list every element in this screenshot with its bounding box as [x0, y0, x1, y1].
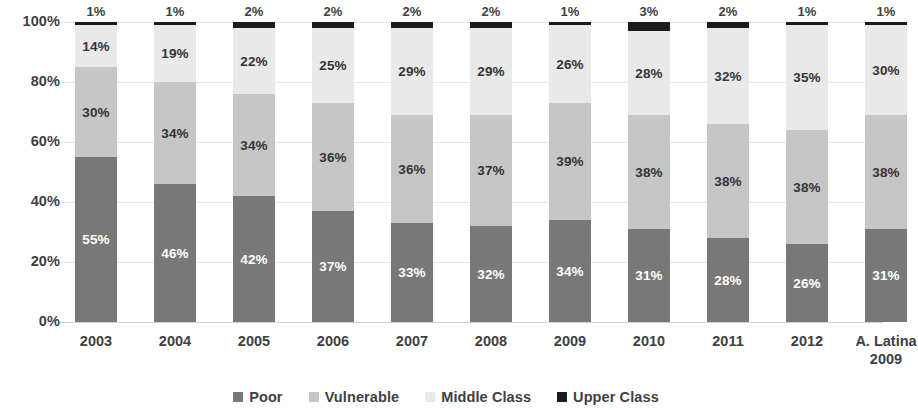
bar-group[interactable]: 37%36%25%2%2%	[312, 22, 354, 322]
x-axis-tick-label: 2009	[538, 332, 602, 350]
x-axis-tick-label: 2008	[459, 332, 523, 350]
bar-segment-middle-class[interactable]: 22%	[233, 28, 275, 94]
x-axis-tick-line: 2012	[775, 332, 839, 350]
bar-segment-middle-class[interactable]: 14%	[75, 25, 117, 67]
bar-segment-middle-class[interactable]: 35%	[786, 25, 828, 130]
bar-group[interactable]: 42%34%22%2%2%	[233, 22, 275, 322]
bar-group[interactable]: 26%38%35%1%1%	[786, 22, 828, 322]
bar-segment-outside-label: 1%	[75, 4, 117, 19]
bar-group[interactable]: 32%37%29%2%2%	[470, 22, 512, 322]
bar-group[interactable]: 46%34%19%1%1%	[154, 22, 196, 322]
legend-item[interactable]: Poor	[233, 389, 282, 405]
bar-segment-value-label: 37%	[319, 259, 346, 274]
bar-segment-vulnerable[interactable]: 39%	[549, 103, 591, 220]
bar-segment-middle-class[interactable]: 28%	[628, 31, 670, 115]
bar-segment-outside-label: 2%	[391, 4, 433, 19]
bar-group[interactable]: 31%38%28%3%3%	[628, 22, 670, 322]
bar-segment-upper-class[interactable]: 2%	[233, 22, 275, 28]
bar-segment-middle-class[interactable]: 19%	[154, 25, 196, 82]
bar-segment-poor[interactable]: 46%	[154, 184, 196, 322]
bar-segment-value-label: 30%	[82, 105, 109, 120]
x-axis-tick-line: 2007	[380, 332, 444, 350]
bar-segment-middle-class[interactable]: 30%	[865, 25, 907, 115]
bar-segment-vulnerable[interactable]: 38%	[707, 124, 749, 238]
legend-swatch-icon	[309, 392, 319, 402]
y-axis-tick-label: 0%	[4, 313, 60, 329]
bar-segment-upper-class[interactable]: 1%	[75, 22, 117, 25]
bar-segment-upper-class[interactable]: 2%	[707, 22, 749, 28]
legend-item-label: Poor	[249, 389, 282, 405]
bar-segment-poor[interactable]: 55%	[75, 157, 117, 322]
bar-segment-outside-label: 1%	[865, 4, 907, 19]
bar-segment-outside-label: 3%	[628, 4, 670, 19]
bar-segment-poor[interactable]: 26%	[786, 244, 828, 322]
bar-segment-vulnerable[interactable]: 36%	[391, 115, 433, 223]
bar-segment-upper-class[interactable]: 2%	[312, 22, 354, 28]
x-axis-tick-line: 2010	[617, 332, 681, 350]
bar-segment-value-label: 39%	[556, 154, 583, 169]
x-axis-tick-line: 2009	[854, 350, 918, 368]
bar-segment-value-label: 34%	[556, 264, 583, 279]
bar-segment-poor[interactable]: 31%	[865, 229, 907, 322]
bar-segment-upper-class[interactable]: 1%	[786, 22, 828, 25]
bar-segment-poor[interactable]: 34%	[549, 220, 591, 322]
bar-segment-value-label: 55%	[82, 232, 109, 247]
bar-segment-value-label: 35%	[793, 70, 820, 85]
bar-segment-vulnerable[interactable]: 36%	[312, 103, 354, 211]
bar-segment-middle-class[interactable]: 32%	[707, 28, 749, 124]
bar-group[interactable]: 34%39%26%1%1%	[549, 22, 591, 322]
y-axis-tick-label: 60%	[4, 133, 60, 149]
bar-segment-outside-label: 1%	[549, 4, 591, 19]
bar-segment-poor[interactable]: 32%	[470, 226, 512, 322]
bar-segment-vulnerable[interactable]: 38%	[786, 130, 828, 244]
bar-segment-upper-class[interactable]: 1%	[865, 22, 907, 25]
bar-segment-outside-label: 2%	[312, 4, 354, 19]
bar-segment-value-label: 29%	[477, 64, 504, 79]
bar-segment-upper-class[interactable]: 1%	[154, 22, 196, 25]
bar-segment-middle-class[interactable]: 29%	[470, 28, 512, 115]
bar-segment-upper-class[interactable]: 2%	[470, 22, 512, 28]
bar-segment-outside-label: 2%	[707, 4, 749, 19]
bar-segment-vulnerable[interactable]: 38%	[865, 115, 907, 229]
bar-group[interactable]: 55%30%14%1%1%	[75, 22, 117, 322]
bar-segment-middle-class[interactable]: 29%	[391, 28, 433, 115]
bar-segment-middle-class[interactable]: 25%	[312, 28, 354, 103]
gridline	[60, 322, 883, 323]
legend-item[interactable]: Upper Class	[557, 389, 659, 405]
bar-segment-outside-label: 1%	[154, 4, 196, 19]
bar-segment-poor[interactable]: 31%	[628, 229, 670, 322]
bar-segment-value-label: 22%	[240, 54, 267, 69]
bar-segment-vulnerable[interactable]: 38%	[628, 115, 670, 229]
bar-segment-vulnerable[interactable]: 37%	[470, 115, 512, 226]
bar-segment-vulnerable[interactable]: 34%	[154, 82, 196, 184]
bar-segment-value-label: 32%	[714, 69, 741, 84]
bar-segment-value-label: 38%	[872, 165, 899, 180]
bar-segment-value-label: 32%	[477, 267, 504, 282]
legend-item-label: Middle Class	[441, 389, 531, 405]
bar-segment-value-label: 38%	[714, 174, 741, 189]
bar-group[interactable]: 33%36%29%2%2%	[391, 22, 433, 322]
bar-segment-value-label: 19%	[161, 46, 188, 61]
legend-item[interactable]: Vulnerable	[309, 389, 400, 405]
x-axis-tick-label: 2011	[696, 332, 760, 350]
bar-segment-upper-class[interactable]: 3%	[628, 22, 670, 31]
bar-segment-poor[interactable]: 37%	[312, 211, 354, 322]
bar-segment-outside-label: 1%	[786, 4, 828, 19]
legend-swatch-icon	[233, 392, 243, 402]
bar-segment-upper-class[interactable]: 2%	[391, 22, 433, 28]
bar-segment-upper-class[interactable]: 1%	[549, 22, 591, 25]
bar-group[interactable]: 31%38%30%1%1%	[865, 22, 907, 322]
chart-legend: PoorVulnerableMiddle ClassUpper Class	[0, 386, 892, 408]
bar-segment-middle-class[interactable]: 26%	[549, 25, 591, 103]
bar-segment-poor[interactable]: 33%	[391, 223, 433, 322]
bar-segment-poor[interactable]: 28%	[707, 238, 749, 322]
bar-group[interactable]: 28%38%32%2%2%	[707, 22, 749, 322]
x-axis-tick-line: 2008	[459, 332, 523, 350]
bar-segment-value-label: 29%	[398, 64, 425, 79]
bar-segment-poor[interactable]: 42%	[233, 196, 275, 322]
bar-segment-vulnerable[interactable]: 34%	[233, 94, 275, 196]
legend-item[interactable]: Middle Class	[425, 389, 531, 405]
x-axis-tick-label: A. Latina2009	[854, 332, 918, 368]
bar-segment-vulnerable[interactable]: 30%	[75, 67, 117, 157]
